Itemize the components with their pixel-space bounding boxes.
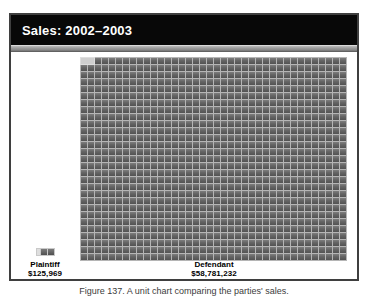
unit-tile (186, 65, 192, 71)
unit-tile (235, 58, 241, 64)
unit-tile (88, 226, 94, 232)
unit-tile (186, 170, 192, 176)
unit-tile (116, 79, 122, 85)
unit-tile (193, 100, 199, 106)
unit-tile (249, 100, 255, 106)
unit-tile (186, 58, 192, 64)
unit-tile (116, 65, 122, 71)
defendant-unit-grid (80, 57, 347, 261)
unit-tile (137, 240, 143, 246)
unit-tile (298, 86, 304, 92)
unit-tile (151, 247, 157, 253)
unit-tile (123, 86, 129, 92)
unit-tile (102, 156, 108, 162)
unit-tile (116, 198, 122, 204)
unit-tile (158, 58, 164, 64)
unit-tile (179, 163, 185, 169)
unit-tile (137, 100, 143, 106)
unit-tile (270, 58, 276, 64)
unit-tile (179, 65, 185, 71)
unit-tile (158, 135, 164, 141)
unit-tile (144, 233, 150, 239)
unit-tile (305, 233, 311, 239)
unit-tile (312, 142, 318, 148)
unit-tile (116, 114, 122, 120)
unit-tile (242, 79, 248, 85)
unit-tile (200, 65, 206, 71)
unit-tile (333, 65, 339, 71)
unit-tile (263, 86, 269, 92)
unit-tile (186, 135, 192, 141)
unit-tile (193, 135, 199, 141)
unit-tile (284, 254, 290, 260)
unit-tile (305, 72, 311, 78)
unit-tile (102, 72, 108, 78)
unit-tile (172, 65, 178, 71)
unit-tile (130, 254, 136, 260)
unit-tile (48, 249, 54, 255)
unit-tile (242, 184, 248, 190)
unit-tile (235, 100, 241, 106)
unit-tile (228, 191, 234, 197)
unit-tile (158, 198, 164, 204)
unit-tile (137, 212, 143, 218)
unit-tile (228, 163, 234, 169)
unit-tile (116, 58, 122, 64)
unit-tile (193, 191, 199, 197)
unit-tile (123, 107, 129, 113)
unit-tile (186, 114, 192, 120)
unit-tile (284, 149, 290, 155)
unit-tile (172, 128, 178, 134)
unit-tile (326, 128, 332, 134)
unit-tile (172, 121, 178, 127)
unit-tile (165, 86, 171, 92)
unit-tile (249, 79, 255, 85)
unit-tile (186, 156, 192, 162)
unit-tile (102, 191, 108, 197)
unit-tile (102, 198, 108, 204)
unit-tile (158, 163, 164, 169)
unit-tile (340, 128, 346, 134)
unit-tile (193, 79, 199, 85)
unit-tile (298, 198, 304, 204)
unit-tile (263, 212, 269, 218)
unit-tile (186, 93, 192, 99)
unit-tile (123, 247, 129, 253)
unit-tile (186, 163, 192, 169)
unit-tile (95, 121, 101, 127)
unit-tile (81, 177, 87, 183)
unit-tile (165, 184, 171, 190)
unit-tile (291, 219, 297, 225)
unit-tile (109, 219, 115, 225)
unit-tile (298, 191, 304, 197)
unit-tile (102, 135, 108, 141)
unit-tile (130, 107, 136, 113)
unit-tile (179, 128, 185, 134)
unit-tile (291, 93, 297, 99)
plaintiff-unit-marker (36, 248, 55, 256)
unit-tile (137, 170, 143, 176)
unit-tile (277, 72, 283, 78)
unit-tile (298, 135, 304, 141)
unit-tile (88, 121, 94, 127)
unit-tile (277, 79, 283, 85)
unit-tile (249, 65, 255, 71)
unit-tile (186, 233, 192, 239)
unit-tile (102, 254, 108, 260)
unit-tile (130, 72, 136, 78)
unit-tile (116, 233, 122, 239)
unit-tile (200, 247, 206, 253)
unit-tile (130, 65, 136, 71)
unit-tile (81, 254, 87, 260)
unit-tile (319, 72, 325, 78)
unit-tile (298, 58, 304, 64)
unit-tile (319, 93, 325, 99)
unit-tile (207, 205, 213, 211)
unit-tile (242, 100, 248, 106)
unit-tile (249, 114, 255, 120)
unit-tile (312, 121, 318, 127)
unit-tile (312, 100, 318, 106)
unit-tile (88, 86, 94, 92)
unit-tile (137, 191, 143, 197)
unit-tile (214, 240, 220, 246)
